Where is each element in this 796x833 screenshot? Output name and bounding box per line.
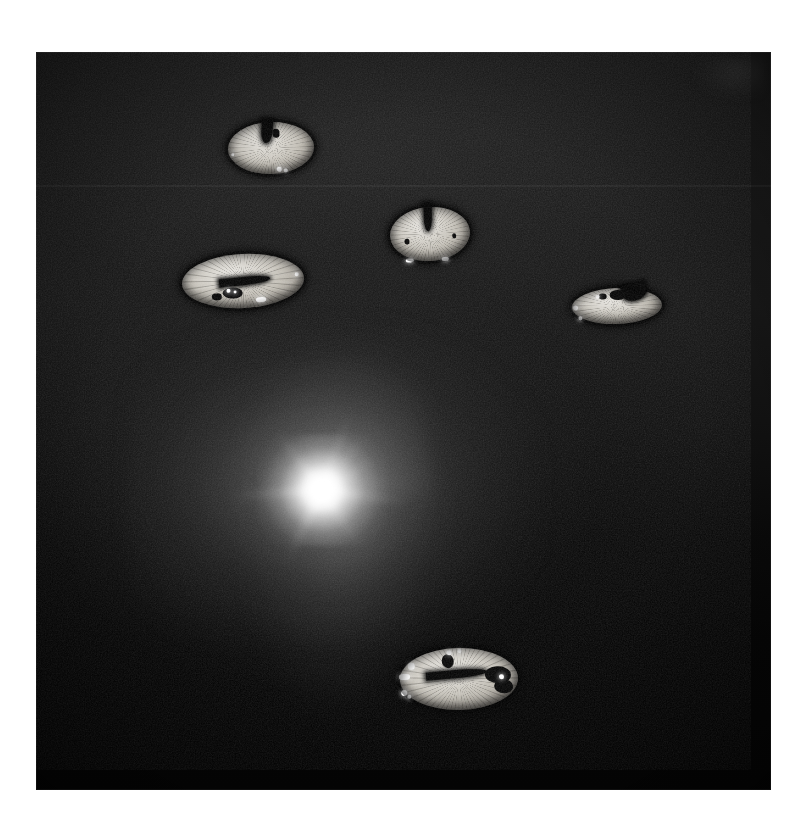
water-droplet [441,257,448,261]
photo-canvas: Five sunlit lily pads float on near-blac… [0,0,796,833]
water-droplet [407,695,411,699]
water-droplet [231,153,234,156]
lily-pad-debris [272,129,280,138]
photographic-print [36,52,771,790]
lily-pad-debris [405,239,410,245]
water-droplet [226,289,230,293]
lily-pad-debris [442,654,454,668]
water-droplet [277,166,282,171]
lily-pad-debris [599,293,607,299]
lily-pad-debris [609,290,626,300]
water-droplet [399,674,410,680]
lily-pad-torn-edge [494,679,513,693]
water-droplet [406,258,414,263]
scan-seam-artifact-secondary [36,186,771,187]
water-droplet [408,662,415,669]
water-droplet [579,316,583,320]
water-droplet [573,305,578,310]
water-droplet [284,168,288,172]
corner-smudge-artifact [695,54,765,100]
water-droplet [234,290,237,293]
